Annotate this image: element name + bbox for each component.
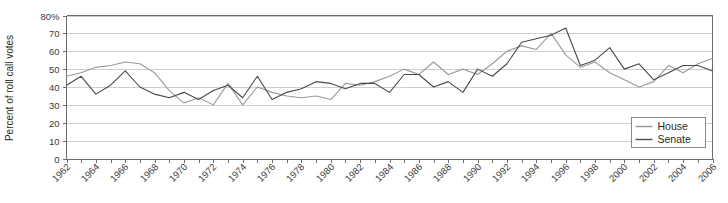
- line-chart: 01020304050607080% 196219641966196819701…: [0, 0, 728, 203]
- y-tick-label: 70: [49, 28, 60, 39]
- x-tick-label: 1982: [343, 161, 366, 184]
- y-tick-label: 60: [49, 46, 60, 57]
- y-tick-label: 30: [49, 100, 60, 111]
- legend-label-senate: Senate: [658, 133, 691, 145]
- x-tick-label: 1990: [461, 161, 484, 184]
- series-line-senate: [67, 28, 713, 100]
- x-tick-label: 1992: [490, 161, 513, 184]
- x-tick-label: 2004: [666, 161, 689, 184]
- y-tick-labels: 01020304050607080%: [40, 11, 60, 165]
- x-tick-label: 1972: [196, 161, 219, 184]
- x-tick-label: 1996: [549, 161, 572, 184]
- chart-canvas: 01020304050607080% 196219641966196819701…: [0, 0, 728, 203]
- x-tick-label: 1964: [79, 161, 102, 184]
- x-tick-label: 1970: [167, 161, 190, 184]
- chart-legend: HouseSenate: [631, 117, 705, 147]
- y-tick-label: 50: [49, 64, 60, 75]
- x-tick-label: 2000: [607, 161, 630, 184]
- x-tick-label: 2006: [696, 161, 719, 184]
- y-tick-label: 20: [49, 118, 60, 129]
- x-tick-label: 1998: [578, 161, 601, 184]
- x-tick-label: 1986: [402, 161, 425, 184]
- y-axis-title: Percent of roll call votes: [4, 35, 15, 141]
- x-tick-label: 1984: [373, 161, 396, 184]
- y-tick-label: 80%: [40, 11, 60, 22]
- x-tick-label: 1966: [108, 161, 131, 184]
- y-tick-label: 0: [54, 154, 59, 165]
- legend-label-house: House: [658, 120, 689, 132]
- x-tick-label: 1980: [314, 161, 337, 184]
- y-tick-marks: [63, 17, 67, 160]
- x-tick-label: 1988: [431, 161, 454, 184]
- y-tick-label: 40: [49, 82, 60, 93]
- x-tick-label: 1994: [519, 161, 542, 184]
- x-tick-label: 1976: [255, 161, 278, 184]
- x-tick-label: 2002: [637, 161, 660, 184]
- x-tick-label: 1968: [138, 161, 161, 184]
- data-series-group: [67, 28, 713, 105]
- x-tick-label: 1962: [50, 161, 73, 184]
- x-tick-label: 1978: [284, 161, 307, 184]
- y-tick-label: 10: [49, 136, 60, 147]
- x-tick-label: 1974: [226, 161, 249, 184]
- x-tick-labels: 1962196419661968197019721974197619781980…: [50, 161, 719, 184]
- gridlines-group: [67, 17, 713, 160]
